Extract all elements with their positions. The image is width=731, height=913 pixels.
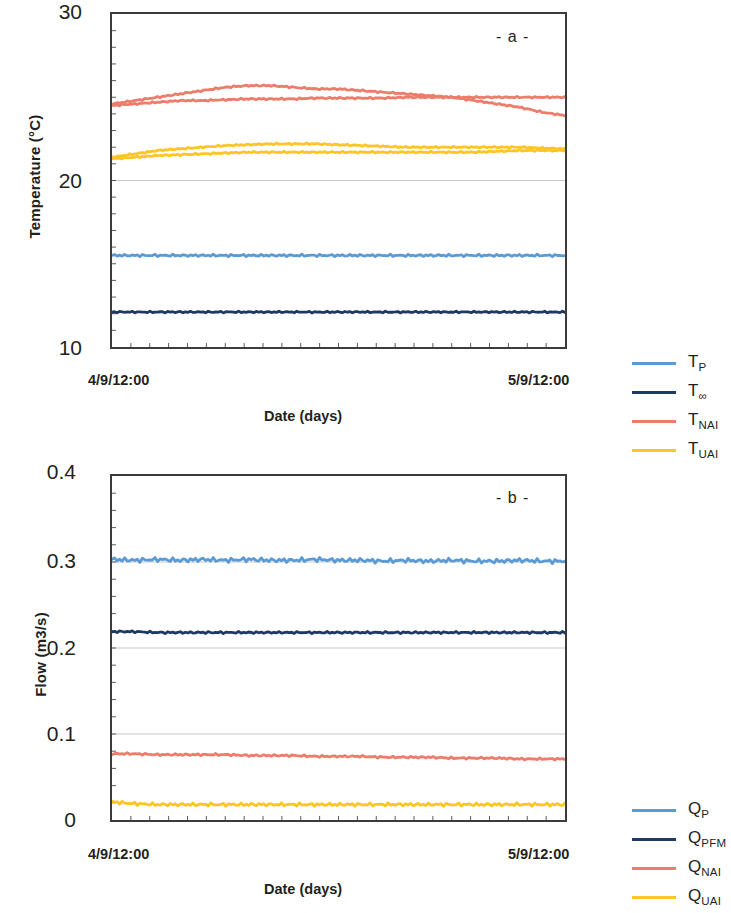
legend-flow: QPQPFMQNAIQUAI xyxy=(632,796,726,912)
legend-item-label: QPFM xyxy=(688,829,726,850)
legend-item-label: TP xyxy=(688,353,706,374)
legend-item[interactable]: T∞ xyxy=(632,378,718,407)
temperature-plot-area xyxy=(110,12,567,349)
flow-series-canvas xyxy=(112,476,565,820)
legend-color-swatch xyxy=(632,449,676,452)
temperature-series-canvas xyxy=(112,14,565,347)
legend-item[interactable]: QUAI xyxy=(632,883,726,912)
legend-color-swatch xyxy=(632,362,676,365)
x-tick-label-start: 4/9/12:00 xyxy=(88,846,149,862)
legend-item-label: QP xyxy=(688,800,709,821)
x-axis-title: Date (days) xyxy=(264,408,342,424)
x-tick-label-start: 4/9/12:00 xyxy=(88,372,149,388)
legend-item[interactable]: QNAI xyxy=(632,854,726,883)
y-tick-label: 0.4 xyxy=(14,460,76,484)
legend-temperature: TPT∞TNAITUAI xyxy=(632,349,718,465)
y-tick-label: 0.3 xyxy=(14,549,76,573)
legend-item[interactable]: QPFM xyxy=(632,825,726,854)
panel-tag-a: - a - xyxy=(496,28,529,46)
legend-color-swatch xyxy=(632,867,676,870)
y-tick-label: 20 xyxy=(20,169,82,193)
y-tick-label: 30 xyxy=(20,0,82,24)
y-tick-label: 0.2 xyxy=(14,636,76,660)
x-tick-label-end: 5/9/12:00 xyxy=(508,372,569,388)
legend-color-swatch xyxy=(632,420,676,423)
legend-item[interactable]: TNAI xyxy=(632,407,718,436)
panel-tag-b: - b - xyxy=(496,489,529,507)
legend-color-swatch xyxy=(632,896,676,899)
legend-item[interactable]: TP xyxy=(632,349,718,378)
legend-item-label: T∞ xyxy=(688,382,707,403)
legend-color-swatch xyxy=(632,838,676,841)
flow-chart-panel: Flow (m3/s) 0.4 0.3 0.2 0.1 0 - b - 4/9/… xyxy=(0,456,731,913)
y-tick-label: 0.1 xyxy=(14,722,76,746)
x-axis-title: Date (days) xyxy=(264,881,342,897)
legend-item-label: TNAI xyxy=(688,411,718,432)
flow-plot-area xyxy=(110,474,567,822)
legend-item-label: QUAI xyxy=(688,887,721,908)
y-tick-label: 0 xyxy=(14,808,76,832)
x-tick-label-end: 5/9/12:00 xyxy=(508,846,569,862)
y-tick-label: 10 xyxy=(20,336,82,360)
legend-item[interactable]: QP xyxy=(632,796,726,825)
legend-item-label: QNAI xyxy=(688,858,721,879)
legend-color-swatch xyxy=(632,391,676,394)
legend-color-swatch xyxy=(632,809,676,812)
temperature-chart-panel: Temperature (°C) 30 20 10 - a - 4/9/12:0… xyxy=(0,0,731,456)
